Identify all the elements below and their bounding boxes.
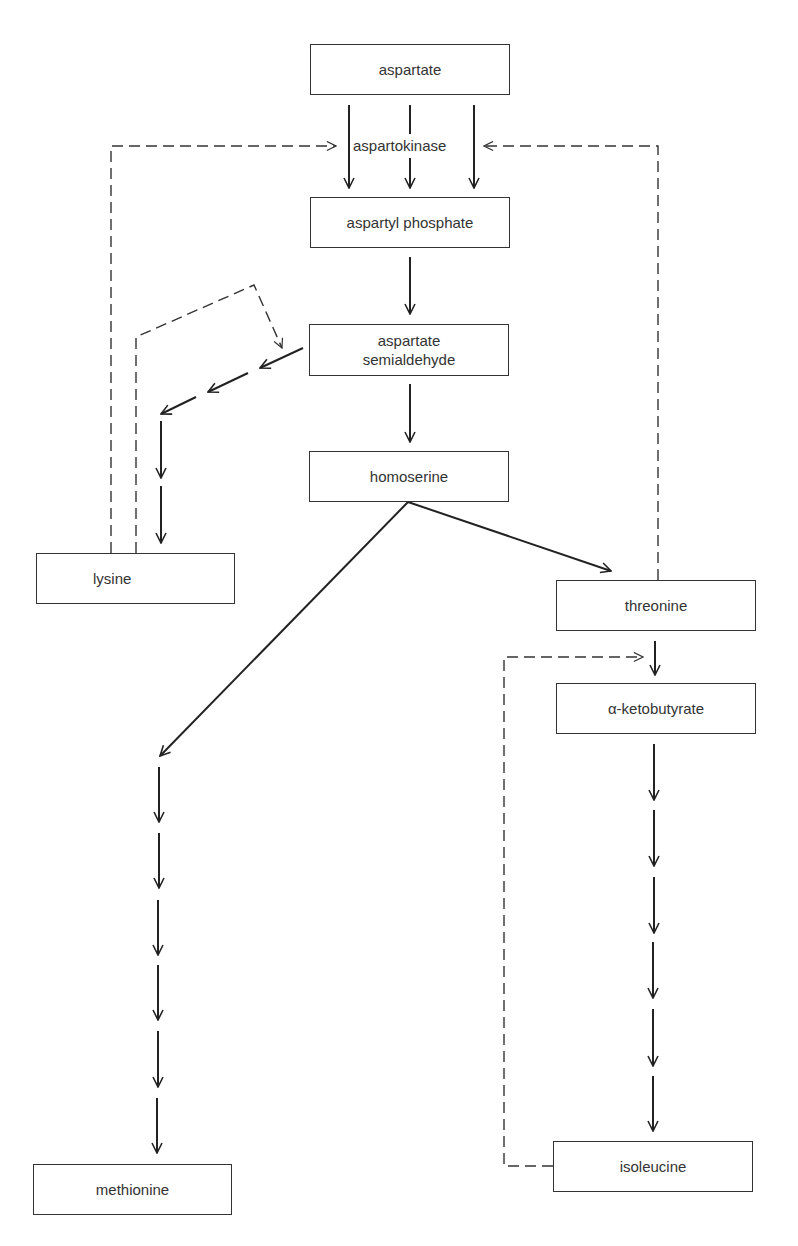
node-methionine: methionine [33,1164,232,1215]
node-threonine-label: threonine [625,596,688,615]
node-homoserine: homoserine [309,451,509,502]
node-threonine: threonine [556,580,756,631]
node-aspartate: aspartate [310,44,510,95]
node-aspartate-semialdehyde: aspartate semialdehyde [309,324,509,376]
node-isoleucine-label: isoleucine [620,1157,687,1176]
node-homoserine-label: homoserine [370,467,448,486]
node-alpha-ketobutyrate: α-ketobutyrate [556,683,756,734]
node-alpha-ketobutyrate-label: α-ketobutyrate [608,699,704,718]
node-aspartyl-phosphate: aspartyl phosphate [310,197,510,248]
node-isoleucine: isoleucine [553,1141,753,1192]
node-lysine: lysine [36,553,235,604]
enzyme-label-aspartokinase: aspartokinase [351,137,448,154]
node-aspartate-semialdehyde-line2: semialdehyde [363,350,456,369]
feedback-dashed-lines [111,146,658,1166]
node-aspartyl-phosphate-label: aspartyl phosphate [347,213,474,232]
node-lysine-label: lysine [93,569,131,588]
node-aspartate-semialdehyde-line1: aspartate [378,331,441,350]
node-aspartate-label: aspartate [379,60,442,79]
node-methionine-label: methionine [96,1180,169,1199]
